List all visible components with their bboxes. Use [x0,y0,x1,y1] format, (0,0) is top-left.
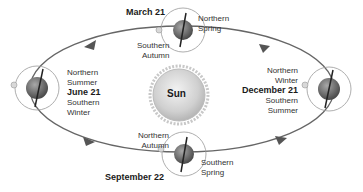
label-june-southern: Southern Winter [67,98,99,117]
date-june: June 21 [67,87,101,97]
label-september-southern: Southern Spring [201,158,233,177]
label-march-northern: Northern Spring [198,14,229,33]
label-december-northern: Northern Winter [267,66,298,85]
label-september-northern: Northern Autumn [138,131,169,150]
orbit-arrow-top-left [84,40,96,50]
label-march-southern: Southern Autumn [137,41,169,60]
label-june-northern: Northern Summer [67,68,98,87]
moon-icon [11,82,17,88]
date-september: September 22 [105,172,164,182]
moon-icon [302,82,308,88]
date-december: December 21 [242,85,298,95]
date-march: March 21 [126,7,165,17]
orbit-arrow-top-right [259,44,270,53]
moon-icon [156,27,162,33]
orbit-arrow-bottom-right [275,136,287,145]
sun-label: Sun [167,88,186,99]
label-december-southern: Southern Summer [266,96,298,115]
earth-december [302,67,351,111]
seasons-diagram: Sun March 21 Northern Spring Southern Au… [0,0,363,192]
